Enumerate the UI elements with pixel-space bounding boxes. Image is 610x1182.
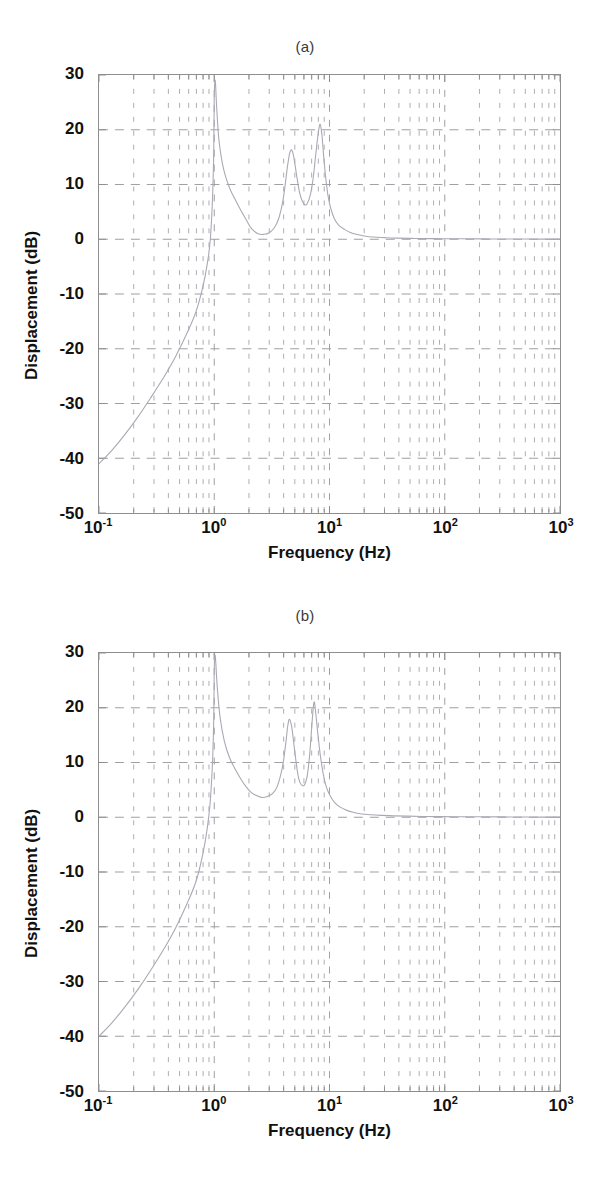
- panel-a-plot-area: [98, 74, 561, 514]
- x-tick-label: 102: [433, 518, 458, 538]
- panel-a-title: (a): [0, 38, 610, 55]
- panel-b-x-axis-title: Frequency (Hz): [98, 1121, 561, 1141]
- y-tick-label: 20: [65, 697, 84, 717]
- panel-b-plot-area: [98, 652, 561, 1092]
- y-tick-label: 20: [65, 119, 84, 139]
- panel-b-title: (b): [0, 607, 610, 624]
- y-tick-label: -30: [59, 972, 84, 992]
- y-tick-label: -20: [59, 339, 84, 359]
- x-tick-label: 101: [317, 1096, 342, 1116]
- panel-a-x-axis-title: Frequency (Hz): [98, 543, 561, 563]
- figure-panel-b: (b) 30 20 10 0 -10 -20 -30 -40 -50 10-1 …: [0, 575, 610, 1182]
- x-tick-label: 101: [317, 518, 342, 538]
- y-tick-label: 30: [65, 64, 84, 84]
- y-tick-label: -50: [59, 504, 84, 524]
- panel-a-data-curve: [99, 75, 560, 513]
- x-tick-label: 100: [201, 518, 226, 538]
- panel-b-data-curve: [99, 653, 560, 1091]
- x-tick-label: 103: [548, 518, 573, 538]
- y-tick-label: -10: [59, 284, 84, 304]
- x-tick-label: 103: [548, 1096, 573, 1116]
- y-tick-label: 0: [75, 229, 84, 249]
- y-tick-label: 10: [65, 752, 84, 772]
- y-tick-label: 30: [65, 642, 84, 662]
- figure-panel-a: (a) 30 20 10 0 -10 -20 -30 -40 -50 10-1 …: [0, 0, 610, 575]
- y-tick-label: -30: [59, 394, 84, 414]
- y-tick-label: 0: [75, 807, 84, 827]
- x-tick-label: 102: [433, 1096, 458, 1116]
- panel-b-y-axis-title: Displacement (dB): [22, 809, 42, 958]
- y-tick-label: -40: [59, 1027, 84, 1047]
- y-tick-label: -10: [59, 862, 84, 882]
- y-tick-label: -20: [59, 917, 84, 937]
- y-tick-label: -50: [59, 1082, 84, 1102]
- x-tick-label: 100: [201, 1096, 226, 1116]
- panel-a-y-axis-title: Displacement (dB): [22, 231, 42, 380]
- x-tick-label: 10-1: [84, 518, 113, 538]
- y-tick-label: 10: [65, 174, 84, 194]
- x-tick-label: 10-1: [84, 1096, 113, 1116]
- y-tick-label: -40: [59, 449, 84, 469]
